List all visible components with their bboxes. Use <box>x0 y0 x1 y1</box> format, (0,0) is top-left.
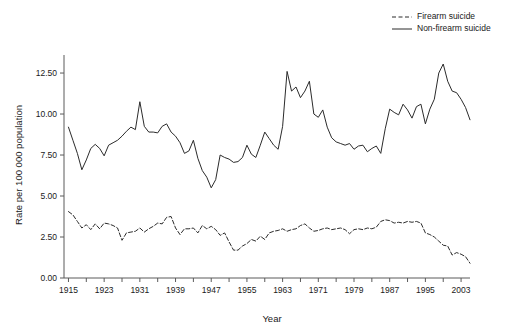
x-tick-label: 1915 <box>59 285 78 295</box>
x-tick-label: 1963 <box>273 285 292 295</box>
x-axis: 1915192319311939194719551963197119791987… <box>59 278 471 295</box>
series-line-non-firearm-suicide <box>68 64 470 188</box>
y-tick-label: 5.00 <box>40 191 57 201</box>
x-axis-title: Year <box>262 313 281 324</box>
x-tick-label: 1987 <box>380 285 399 295</box>
legend-label: Firearm suicide <box>417 11 475 21</box>
chart-figure: 0.002.505.007.5010.0012.50 1915192319311… <box>0 0 526 332</box>
series-line-firearm-suicide <box>68 212 470 264</box>
chart-legend: Firearm suicideNon-firearm suicide <box>392 11 491 33</box>
y-tick-label: 10.00 <box>36 109 58 119</box>
line-chart: 0.002.505.007.5010.0012.50 1915192319311… <box>0 0 526 332</box>
x-tick-label: 1923 <box>95 285 114 295</box>
y-tick-label: 7.50 <box>40 150 57 160</box>
x-tick-label: 1955 <box>237 285 256 295</box>
x-tick-label: 1971 <box>309 285 328 295</box>
x-tick-label: 1979 <box>345 285 364 295</box>
x-tick-label: 1947 <box>202 285 221 295</box>
data-series-group <box>68 64 470 263</box>
y-axis-title: Rate per 100 000 population <box>13 105 24 225</box>
y-tick-label: 0.00 <box>40 273 57 283</box>
y-axis: 0.002.505.007.5010.0012.50 <box>36 55 64 283</box>
y-tick-label: 2.50 <box>40 232 57 242</box>
legend-label: Non-firearm suicide <box>417 23 491 33</box>
y-tick-label: 12.50 <box>36 68 58 78</box>
x-tick-label: 1931 <box>130 285 149 295</box>
x-tick-label: 1939 <box>166 285 185 295</box>
x-tick-label: 2003 <box>452 285 471 295</box>
x-tick-label: 1995 <box>416 285 435 295</box>
